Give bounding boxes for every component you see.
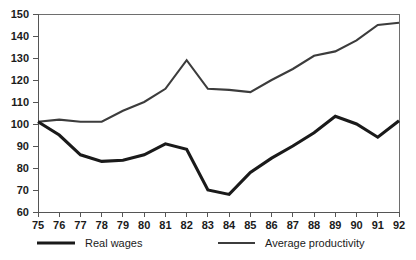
x-axis-ticks: 757677787980818283848586878889909192 bbox=[32, 212, 405, 231]
y-tick-label: 80 bbox=[17, 162, 29, 174]
legend-label-real-wages: Real wages bbox=[85, 237, 143, 249]
series-line-real-wages bbox=[38, 116, 399, 194]
x-tick-label: 81 bbox=[159, 219, 171, 231]
chart-canvas: 60708090100110120130140150 7576777879808… bbox=[0, 0, 416, 260]
y-tick-label: 60 bbox=[17, 206, 29, 218]
line-chart-figure: 60708090100110120130140150 7576777879808… bbox=[0, 0, 416, 260]
y-tick-label: 70 bbox=[17, 184, 29, 196]
x-tick-label: 92 bbox=[393, 219, 405, 231]
x-tick-label: 88 bbox=[308, 219, 320, 231]
x-tick-label: 85 bbox=[244, 219, 256, 231]
x-tick-label: 77 bbox=[74, 219, 86, 231]
x-tick-label: 76 bbox=[53, 219, 65, 231]
x-tick-label: 86 bbox=[265, 219, 277, 231]
y-tick-label: 150 bbox=[11, 8, 29, 20]
y-tick-label: 140 bbox=[11, 30, 29, 42]
x-tick-label: 75 bbox=[32, 219, 44, 231]
x-tick-label: 89 bbox=[329, 219, 341, 231]
x-tick-label: 82 bbox=[181, 219, 193, 231]
y-tick-label: 100 bbox=[11, 118, 29, 130]
legend-label-average-productivity: Average productivity bbox=[265, 237, 365, 249]
y-tick-label: 120 bbox=[11, 74, 29, 86]
x-tick-label: 91 bbox=[372, 219, 384, 231]
chart-legend: Real wages Average productivity bbox=[37, 237, 365, 249]
x-tick-label: 78 bbox=[96, 219, 108, 231]
legend-item-real-wages: Real wages bbox=[37, 237, 143, 249]
plot-frame bbox=[38, 14, 399, 212]
x-tick-label: 80 bbox=[138, 219, 150, 231]
legend-item-average-productivity: Average productivity bbox=[218, 237, 365, 249]
series-line-average-productivity bbox=[38, 23, 399, 122]
y-tick-label: 130 bbox=[11, 52, 29, 64]
x-tick-label: 90 bbox=[350, 219, 362, 231]
series-group bbox=[38, 23, 399, 195]
y-tick-label: 110 bbox=[11, 96, 29, 108]
x-tick-label: 84 bbox=[223, 219, 236, 231]
y-axis-ticks: 60708090100110120130140150 bbox=[11, 8, 38, 218]
x-tick-label: 87 bbox=[287, 219, 299, 231]
x-tick-label: 79 bbox=[117, 219, 129, 231]
y-tick-label: 90 bbox=[17, 140, 29, 152]
x-tick-label: 83 bbox=[202, 219, 214, 231]
